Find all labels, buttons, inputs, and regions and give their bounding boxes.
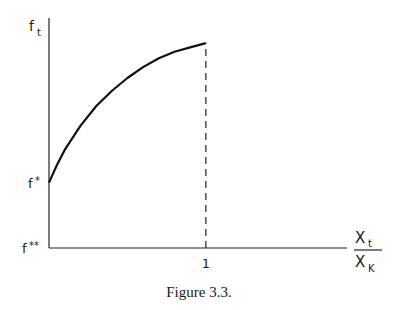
- figure-caption: Figure 3.3.: [166, 284, 231, 300]
- y-axis-label-sub: t: [37, 27, 41, 38]
- y-tick-label: f: [28, 176, 33, 191]
- chart: f t X t X K Figure 3.3. 1f**f*: [0, 0, 399, 310]
- series-line-f-t: [49, 43, 206, 183]
- y-tick-label: f: [22, 241, 27, 256]
- y-tick-label-superscript: *: [35, 175, 40, 186]
- x-axis-label-denominator: X: [355, 253, 365, 271]
- x-axis-label-denominator-sub: K: [368, 263, 375, 274]
- y-axis-label: f: [29, 18, 35, 34]
- y-tick-label-superscript: **: [29, 240, 39, 251]
- x-axis-label-numerator: X: [355, 229, 365, 247]
- x-tick-label: 1: [202, 256, 210, 271]
- x-axis-label-numerator-sub: t: [368, 238, 372, 249]
